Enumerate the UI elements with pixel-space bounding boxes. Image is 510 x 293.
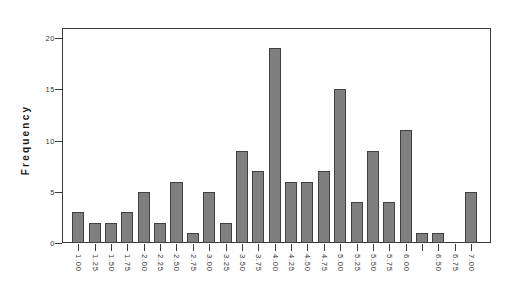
x-axis-tick-label: 4.75 (319, 254, 329, 288)
y-axis-tick-label: 15 (35, 85, 55, 94)
x-axis-tick-mark (422, 244, 423, 251)
histogram-bar (400, 130, 412, 243)
x-axis-tick-label-text: 1.00 (74, 254, 83, 272)
x-axis-tick-label-text: 4.75 (319, 254, 328, 272)
x-axis-tick-label: 4.00 (270, 254, 280, 288)
x-axis-tick-mark (258, 244, 259, 251)
x-axis-tick-label: 1.75 (122, 254, 132, 288)
x-axis-tick-mark (455, 244, 456, 251)
y-axis-tick-mark (55, 243, 62, 244)
x-axis-tick-label: 3.50 (237, 254, 247, 288)
x-axis-tick-mark (242, 244, 243, 251)
x-axis-tick-label: 3.75 (253, 254, 263, 288)
histogram-bar (416, 233, 428, 243)
x-axis-tick-mark (78, 244, 79, 251)
x-axis-tick-label-text: 7.00 (467, 254, 476, 272)
x-axis-tick-label-text: 6.50 (434, 254, 443, 272)
x-axis-tick-mark (340, 244, 341, 251)
x-axis-tick-mark (111, 244, 112, 251)
x-axis-tick-label-text: 5.00 (336, 254, 345, 272)
histogram-bar (301, 182, 313, 243)
x-axis-tick-label: 5.25 (352, 254, 362, 288)
x-axis-tick-label: 7.00 (466, 254, 476, 288)
y-axis-tick-mark (55, 38, 62, 39)
histogram-bar (89, 223, 101, 243)
x-axis-tick-mark (324, 244, 325, 251)
histogram-bar (432, 233, 444, 243)
x-axis-tick-label-text: 2.50 (172, 254, 181, 272)
x-axis-tick-label-text: 5.25 (352, 254, 361, 272)
y-axis-tick-label: 5 (35, 187, 55, 196)
x-axis-tick-mark (291, 244, 292, 251)
x-axis-tick-label: 6.75 (450, 254, 460, 288)
y-axis-tick-label: 20 (35, 34, 55, 43)
x-axis-tick-label: 6.50 (433, 254, 443, 288)
x-axis-tick-label-text: 1.75 (123, 254, 132, 272)
histogram-bar (121, 212, 133, 243)
x-axis-tick-label-text: 6.75 (450, 254, 459, 272)
x-axis-tick-label: 4.25 (286, 254, 296, 288)
bars-container (62, 28, 491, 243)
x-axis-tick-label: 4.50 (302, 254, 312, 288)
x-axis-tick-mark (95, 244, 96, 251)
histogram-bar (154, 223, 166, 243)
y-axis-tick-mark (55, 89, 62, 90)
x-axis-tick-mark (373, 244, 374, 251)
x-axis-tick-label: 2.25 (155, 254, 165, 288)
x-axis-tick-mark (275, 244, 276, 251)
x-axis-tick-label-text: 3.50 (237, 254, 246, 272)
x-axis-tick-label: 5.50 (368, 254, 378, 288)
x-axis-tick-label: 6.00 (401, 254, 411, 288)
histogram-bar (203, 192, 215, 243)
x-axis-tick-mark (471, 244, 472, 251)
histogram-bar (383, 202, 395, 243)
histogram-bar (318, 171, 330, 243)
histogram-figure: Frequency 05101520 1.001.251.501.752.002… (0, 0, 510, 293)
x-axis-tick-label-text: 3.25 (221, 254, 230, 272)
x-axis-tick-label: 5.75 (384, 254, 394, 288)
x-axis-tick-label-text: 1.25 (90, 254, 99, 272)
histogram-bar (138, 192, 150, 243)
histogram-bar (72, 212, 84, 243)
histogram-bar (187, 233, 199, 243)
x-axis-tick-label-text: 3.00 (205, 254, 214, 272)
x-axis-tick-label: 2.50 (171, 254, 181, 288)
histogram-bar (367, 151, 379, 243)
x-axis-tick-mark (144, 244, 145, 251)
x-axis-tick-label: 2.00 (139, 254, 149, 288)
histogram-bar (252, 171, 264, 243)
x-axis-tick-label-text: 4.00 (270, 254, 279, 272)
x-axis-tick-mark (193, 244, 194, 251)
x-axis-tick-label: 1.25 (90, 254, 100, 288)
histogram-bar (105, 223, 117, 243)
histogram-bar (465, 192, 477, 243)
x-axis-tick-mark (406, 244, 407, 251)
x-axis-tick-label: 1.00 (73, 254, 83, 288)
x-axis-tick-mark (226, 244, 227, 251)
histogram-bar (285, 182, 297, 243)
x-axis-tick-mark (127, 244, 128, 251)
x-axis-tick-label-text: 5.75 (385, 254, 394, 272)
x-axis-tick-label-text: 2.25 (156, 254, 165, 272)
y-axis-title-text: Frequency (20, 105, 31, 175)
x-axis-tick-label: 2.75 (188, 254, 198, 288)
histogram-bar (220, 223, 232, 243)
x-axis-tick-mark (357, 244, 358, 251)
histogram-bar (334, 89, 346, 243)
histogram-bar (351, 202, 363, 243)
y-axis-tick-label: 0 (35, 239, 55, 248)
x-axis-tick-label-text: 4.25 (287, 254, 296, 272)
x-axis-tick-label: 3.25 (221, 254, 231, 288)
x-axis-tick-label-text: 1.50 (106, 254, 115, 272)
histogram-bar (170, 182, 182, 243)
x-axis-tick-label: 1.50 (106, 254, 116, 288)
x-axis-tick-label: 5.00 (335, 254, 345, 288)
x-axis-tick-mark (209, 244, 210, 251)
histogram-bar (236, 151, 248, 243)
histogram-bar (269, 48, 281, 243)
x-axis-tick-label-text: 2.00 (139, 254, 148, 272)
x-axis-tick-mark (438, 244, 439, 251)
y-axis-tick-mark (55, 141, 62, 142)
x-axis-tick-mark (389, 244, 390, 251)
x-axis-tick-mark (160, 244, 161, 251)
